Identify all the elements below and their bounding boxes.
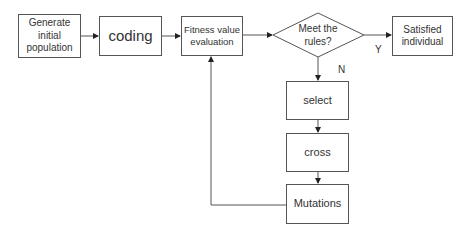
fitness-evaluation-box: Fitness value evaluation xyxy=(181,16,243,56)
no-label: N xyxy=(338,64,345,75)
satisfied-individual-box: Satisfied individual xyxy=(392,16,453,56)
cross-text: cross xyxy=(304,146,330,160)
mutations-box: Mutations xyxy=(286,184,349,224)
generate-population-text: Generate initial population xyxy=(19,17,80,55)
fitness-evaluation-text: Fitness value evaluation xyxy=(182,24,242,48)
generate-population-box: Generate initial population xyxy=(18,14,81,58)
coding-box: coding xyxy=(99,16,162,56)
cross-box: cross xyxy=(286,133,349,172)
select-text: select xyxy=(303,94,332,108)
decision-text: Meet the rules? xyxy=(290,22,346,48)
coding-text: coding xyxy=(108,27,152,46)
yes-label: Y xyxy=(375,44,382,55)
select-box: select xyxy=(286,81,349,120)
mutations-text: Mutations xyxy=(294,197,342,211)
satisfied-individual-text: Satisfied individual xyxy=(393,24,452,49)
